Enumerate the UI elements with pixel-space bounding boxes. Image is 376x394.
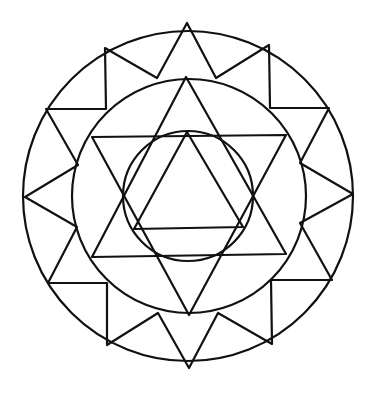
middle-circle (72, 79, 306, 313)
hexagram-down-triangle (92, 135, 286, 315)
hexagram-up-triangle (92, 77, 286, 257)
inner-circle (123, 131, 253, 261)
mandala-diagram (0, 0, 376, 394)
